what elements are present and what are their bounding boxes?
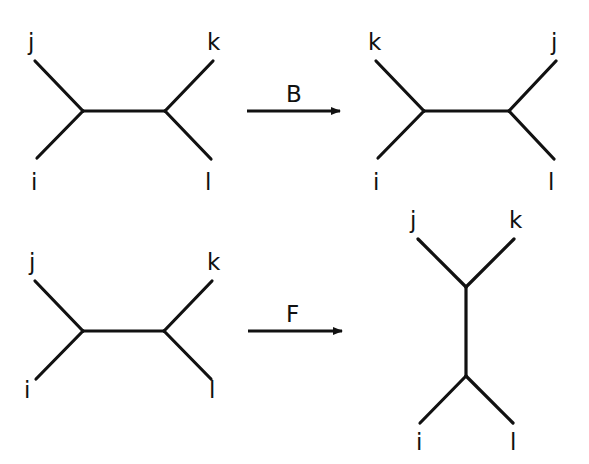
- leaf-label-bottom-left: i: [24, 377, 30, 403]
- tree-b-after: k j i l: [368, 29, 557, 195]
- edge-top-left: [35, 61, 83, 111]
- leaf-label-top-right: j: [550, 29, 557, 55]
- arrow-b: B: [247, 81, 340, 111]
- tree-f-after: j k i l: [409, 207, 523, 455]
- leaf-label-top-left: j: [27, 29, 34, 55]
- leaf-label-top-left: k: [368, 29, 382, 55]
- edge-bottom-left: [378, 111, 424, 158]
- leaf-label-top-left: j: [409, 207, 416, 233]
- arrow-f: F: [248, 301, 342, 331]
- operation-label: F: [286, 301, 299, 327]
- edge-top-left: [376, 61, 424, 111]
- leaf-label-bottom-left: i: [416, 429, 422, 455]
- operation-label: B: [286, 81, 302, 107]
- edge-top-left: [418, 239, 466, 287]
- edge-bottom-left: [37, 111, 83, 158]
- leaf-label-top-left: j: [28, 249, 35, 275]
- leaf-label-top-right: k: [509, 207, 523, 233]
- edge-bottom-right: [509, 111, 554, 159]
- leaf-label-bottom-right: l: [209, 377, 215, 403]
- leaf-label-top-right: k: [207, 29, 221, 55]
- edge-bottom-right: [164, 331, 211, 379]
- tree-b-before: j k i l: [27, 29, 221, 195]
- leaf-label-bottom-left: i: [31, 169, 37, 195]
- edge-bottom-left: [36, 331, 83, 379]
- edge-top-right: [466, 239, 514, 287]
- edge-bottom-left: [420, 376, 466, 423]
- edge-top-right: [509, 61, 556, 111]
- leaf-label-bottom-right: l: [510, 429, 516, 455]
- edge-top-right: [165, 61, 213, 111]
- tree-f-before: j k i l: [24, 249, 221, 403]
- edge-bottom-right: [466, 376, 513, 423]
- edge-top-right: [164, 281, 212, 331]
- edge-bottom-right: [165, 111, 211, 159]
- edge-top-left: [35, 281, 83, 331]
- leaf-label-top-right: k: [207, 249, 221, 275]
- tree-rearrangement-diagram: j k i l B k j i l j k i l F: [0, 0, 589, 464]
- leaf-label-bottom-right: l: [205, 169, 211, 195]
- leaf-label-bottom-left: i: [373, 169, 379, 195]
- leaf-label-bottom-right: l: [548, 169, 554, 195]
